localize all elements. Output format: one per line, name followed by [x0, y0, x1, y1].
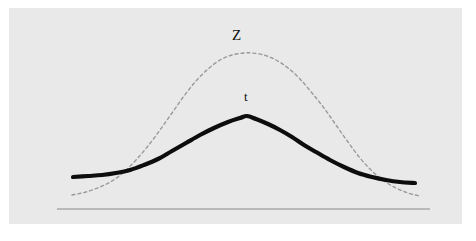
- curve-label-z: Z: [232, 28, 241, 43]
- curve-label-t: t: [244, 90, 248, 103]
- curve-t-distribution: [73, 116, 415, 183]
- figure-container: Z t: [0, 0, 476, 241]
